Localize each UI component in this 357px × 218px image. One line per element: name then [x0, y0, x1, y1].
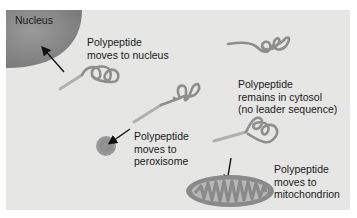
polypeptide-peroxisome	[134, 84, 199, 122]
label-moves-to-nucleus: Polypeptide moves to nucleus	[87, 36, 169, 61]
polypeptide-nucleus	[60, 67, 118, 89]
polypeptide-cytosol	[228, 37, 289, 51]
label-moves-to-mitochondrion: Polypeptide moves to mitochondrion	[274, 163, 340, 201]
mitochondrion	[186, 175, 274, 207]
label-moves-to-peroxisome: Polypeptide moves to peroxisome	[134, 130, 189, 168]
polypeptide-mitochondrion	[214, 118, 277, 143]
peroxisome	[96, 136, 116, 156]
nucleus-label: Nucleus	[15, 14, 53, 26]
diagram-panel: Nucleus Polypeptide moves to nucleus Pol…	[6, 10, 350, 210]
label-remains-in-cytosol: Polypeptide remains in cytosol (no leade…	[238, 78, 337, 116]
peroxisome-arrow-icon	[110, 129, 130, 143]
